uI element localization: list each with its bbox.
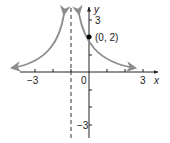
point-0-2 bbox=[87, 35, 92, 40]
y-axis-label: y bbox=[93, 4, 100, 15]
curve-left-branch bbox=[12, 14, 64, 68]
point-label: (0, 2) bbox=[95, 32, 118, 43]
y-tick-label-neg3: −3 bbox=[77, 120, 89, 131]
graph: y 3 (0, 2) −3 0 3 x −3 bbox=[0, 0, 170, 143]
x-tick-label-3: 3 bbox=[140, 75, 146, 86]
y-tick-label-3: 3 bbox=[95, 15, 101, 26]
x-axis-label: x bbox=[153, 75, 160, 86]
x-tick-label-0: 0 bbox=[81, 75, 87, 86]
x-tick-label-neg3: −3 bbox=[27, 75, 39, 86]
